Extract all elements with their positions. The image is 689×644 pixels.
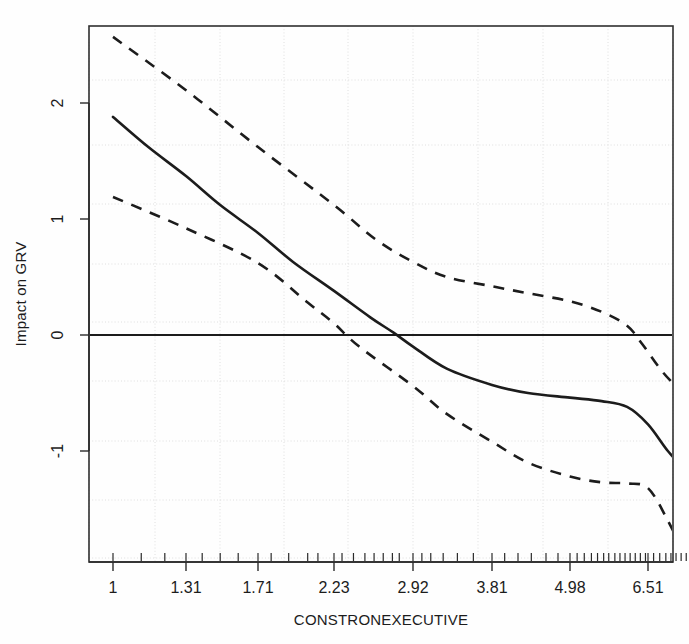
axis-layer (80, 103, 673, 571)
x-tick-label: 1.31 (170, 579, 201, 596)
series-layer (113, 37, 686, 558)
chart-figure: 11.311.712.232.923.814.986.51-1012 CONST… (0, 0, 689, 644)
x-tick-label: 2.23 (318, 579, 349, 596)
x-tick-label: 2.92 (397, 579, 428, 596)
x-tick-label: 1.71 (242, 579, 273, 596)
lower-confidence-band (113, 197, 686, 558)
grid-layer (89, 26, 673, 562)
x-tick-label: 3.81 (476, 579, 507, 596)
rug-marks (113, 553, 686, 561)
y-tick-label: 1 (49, 214, 66, 223)
estimated-effect (113, 117, 686, 471)
y-axis-title: Impact on GRV (12, 242, 29, 347)
x-axis-title: CONSTRONEXECUTIVE (294, 611, 468, 628)
x-tick-label: 4.98 (554, 579, 585, 596)
x-tick-label: 6.51 (632, 579, 663, 596)
tick-label-layer: 11.311.712.232.923.814.986.51-1012 (49, 98, 664, 596)
y-tick-label: -1 (49, 444, 66, 458)
upper-confidence-band (113, 37, 686, 397)
x-tick-label: 1 (109, 579, 118, 596)
y-tick-label: 0 (49, 330, 66, 339)
plot-frame (89, 26, 673, 562)
y-tick-label: 2 (49, 98, 66, 107)
partial-effect-plot: 11.311.712.232.923.814.986.51-1012 CONST… (0, 0, 689, 644)
